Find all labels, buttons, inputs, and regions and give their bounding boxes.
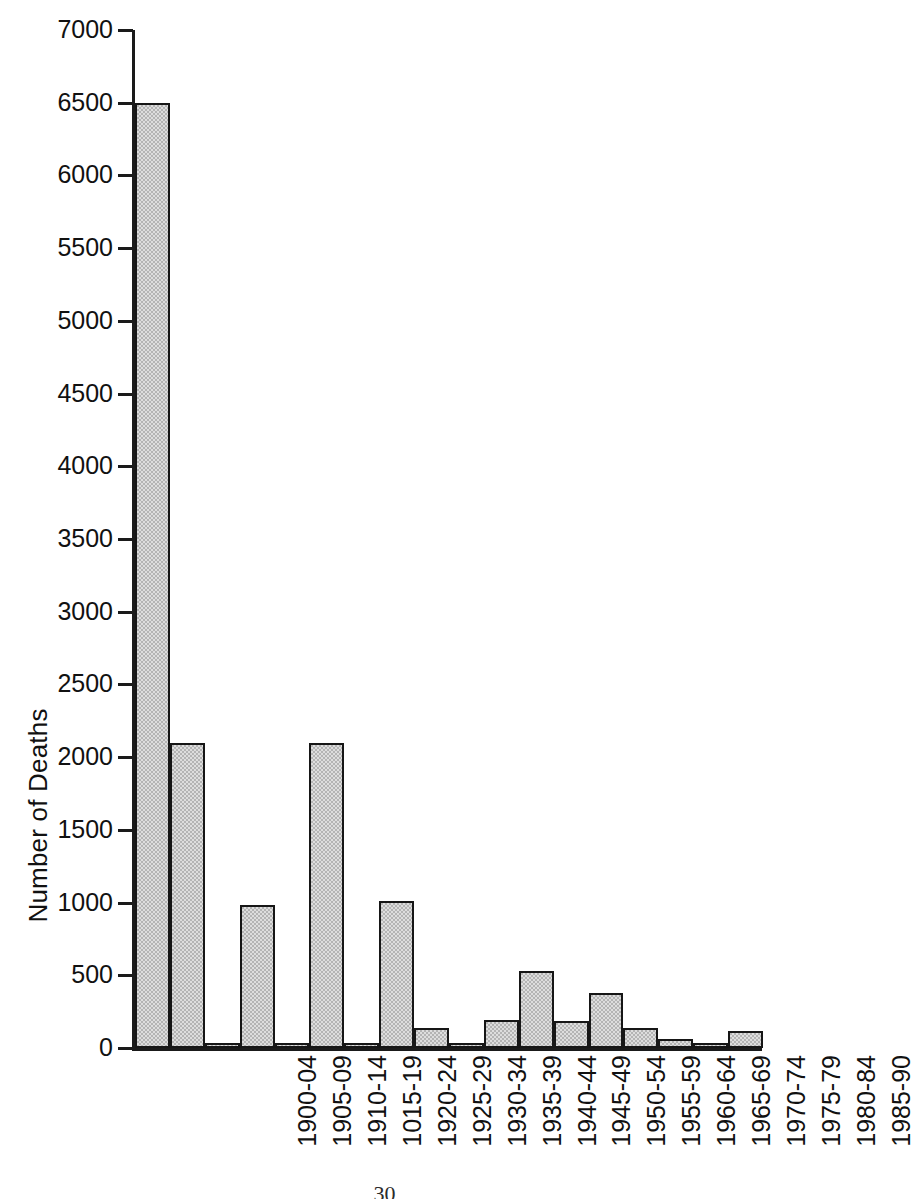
y-tick-mark xyxy=(118,829,133,832)
y-tick-mark xyxy=(118,393,133,396)
bar xyxy=(240,905,275,1048)
y-tick-label: 3500 xyxy=(0,526,113,551)
y-tick-label: 3000 xyxy=(0,599,113,624)
y-tick-label: 6000 xyxy=(0,162,113,187)
x-axis-line xyxy=(132,1048,762,1051)
x-tick-label: 1905-09 xyxy=(329,1055,355,1185)
x-tick-label: 1930-34 xyxy=(504,1055,530,1185)
x-tick-label: 1900-04 xyxy=(294,1055,320,1185)
x-tick-label: 1920-24 xyxy=(434,1055,460,1185)
y-tick-label: 1000 xyxy=(0,890,113,915)
y-tick-mark xyxy=(118,29,133,32)
x-axis-tick-labels: 1900-041905-091910-141015-191920-241925-… xyxy=(135,1055,763,1180)
y-tick-label: 1500 xyxy=(0,817,113,842)
y-tick-mark xyxy=(118,102,133,105)
bar xyxy=(170,743,205,1048)
y-tick-mark xyxy=(118,974,133,977)
y-tick-label: 6500 xyxy=(0,90,113,115)
x-tick-label: 1985-90 xyxy=(888,1055,914,1185)
bar xyxy=(484,1020,519,1048)
x-tick-label: 1980-84 xyxy=(853,1055,879,1185)
y-tick-label: 0 xyxy=(0,1035,113,1060)
bar xyxy=(554,1021,589,1048)
bar xyxy=(344,1043,379,1048)
y-tick-mark xyxy=(118,1047,133,1050)
x-tick-label: 1975-79 xyxy=(818,1055,844,1185)
bar xyxy=(658,1039,693,1048)
bar xyxy=(205,1043,240,1048)
bar xyxy=(589,993,624,1048)
bar xyxy=(449,1043,484,1048)
page-number: 30 xyxy=(0,1181,769,1199)
y-tick-label: 2000 xyxy=(0,744,113,769)
bar xyxy=(135,103,170,1048)
y-tick-label: 5000 xyxy=(0,308,113,333)
y-tick-mark xyxy=(118,247,133,250)
x-tick-label: 1910-14 xyxy=(364,1055,390,1185)
x-tick-label: 1015-19 xyxy=(399,1055,425,1185)
y-tick-mark xyxy=(118,538,133,541)
y-tick-mark xyxy=(118,611,133,614)
x-tick-label: 1965-69 xyxy=(748,1055,774,1185)
y-tick-mark xyxy=(118,683,133,686)
x-tick-label: 1940-44 xyxy=(574,1055,600,1185)
y-tick-label: 4500 xyxy=(0,381,113,406)
x-tick-label: 1955-59 xyxy=(678,1055,704,1185)
x-tick-label: 1950-54 xyxy=(643,1055,669,1185)
y-tick-mark xyxy=(118,174,133,177)
bar xyxy=(275,1043,310,1048)
x-tick-label: 1925-29 xyxy=(469,1055,495,1185)
bar xyxy=(693,1043,728,1048)
bar xyxy=(519,971,554,1048)
y-tick-mark xyxy=(118,465,133,468)
bar xyxy=(309,743,344,1048)
y-tick-mark xyxy=(118,902,133,905)
x-tick-label: 1935-39 xyxy=(539,1055,565,1185)
bar xyxy=(623,1028,658,1048)
y-axis-tick-labels: 0500100015002000250030003500400045005000… xyxy=(0,0,113,1199)
plot-area xyxy=(135,30,763,1048)
y-tick-label: 5500 xyxy=(0,235,113,260)
bar xyxy=(379,901,414,1048)
x-tick-label: 1970-74 xyxy=(783,1055,809,1185)
y-tick-mark xyxy=(118,756,133,759)
bar xyxy=(414,1028,449,1048)
x-tick-label: 1945-49 xyxy=(608,1055,634,1185)
y-tick-label: 2500 xyxy=(0,671,113,696)
y-tick-label: 500 xyxy=(0,962,113,987)
bar xyxy=(728,1031,763,1048)
y-tick-label: 7000 xyxy=(0,17,113,42)
x-tick-label: 1960-64 xyxy=(713,1055,739,1185)
y-tick-mark xyxy=(118,320,133,323)
y-tick-label: 4000 xyxy=(0,453,113,478)
